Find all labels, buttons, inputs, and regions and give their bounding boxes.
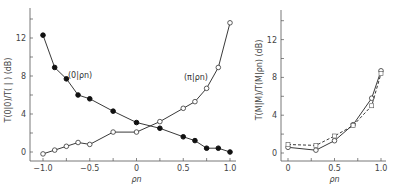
data-point — [379, 72, 383, 76]
data-point — [181, 135, 186, 140]
data-point — [76, 93, 81, 98]
data-point — [228, 21, 233, 26]
y-tick-label: 4 — [272, 111, 277, 120]
x-tick-label: 0 — [285, 164, 290, 173]
data-point — [64, 144, 69, 149]
x-tick-label: 0 — [134, 164, 139, 173]
data-point — [314, 143, 318, 147]
data-point — [204, 146, 209, 151]
y-axis-label: T(0|0)/T( | ) (dB) — [4, 58, 13, 124]
data-point — [193, 99, 198, 104]
y-tick-label: 8 — [21, 72, 26, 81]
y-tick-label: 0 — [21, 148, 26, 157]
y-axis-label: T(M|M)/T(M|ρn) (dB) — [255, 40, 264, 122]
data-point — [134, 130, 139, 135]
data-point — [193, 138, 198, 143]
y-tick-label: 12 — [267, 36, 277, 45]
data-point — [158, 126, 163, 131]
y-tick-label: 12 — [16, 34, 26, 43]
data-point — [333, 134, 337, 138]
data-point — [332, 138, 337, 143]
x-tick-label: 0.5 — [328, 164, 341, 173]
data-point — [314, 148, 319, 153]
data-point — [52, 65, 57, 70]
data-point — [111, 109, 116, 114]
data-point — [111, 130, 116, 135]
x-tick-label: 0.5 — [177, 164, 190, 173]
y-tick-label: 8 — [272, 73, 277, 82]
data-point — [87, 97, 92, 102]
right-chart: 0481200.51.0ρnT(M|M)/T(M|ρn) (dB) — [255, 10, 387, 184]
data-point — [76, 140, 81, 145]
data-point — [228, 150, 233, 155]
x-tick-label: −1.0 — [33, 164, 52, 173]
data-point — [216, 146, 221, 151]
data-point — [286, 142, 290, 146]
data-point — [41, 152, 46, 157]
left-chart: 04812−1.0−0.500.51.0ρnT(0|0)/T( | ) (dB)… — [4, 8, 236, 184]
data-point — [134, 120, 139, 125]
data-point — [204, 86, 209, 91]
figure: 04812−1.0−0.500.51.0ρnT(0|0)/T( | ) (dB)… — [0, 0, 402, 192]
data-point — [181, 106, 186, 111]
series-label-zero: (0|ρn) — [68, 71, 92, 80]
data-point — [369, 96, 374, 101]
data-point — [52, 148, 57, 153]
data-point — [370, 104, 374, 108]
data-point — [87, 142, 92, 147]
x-axis-label: ρn — [329, 175, 339, 184]
x-tick-label: 1.0 — [375, 164, 388, 173]
y-tick-label: 4 — [21, 110, 26, 119]
x-tick-label: 1.0 — [224, 164, 237, 173]
series-label-pi: (π|ρn) — [184, 73, 208, 82]
x-tick-label: −0.5 — [80, 164, 99, 173]
x-axis-label: ρn — [131, 175, 141, 184]
y-tick-label: 0 — [272, 149, 277, 158]
data-point — [351, 124, 355, 128]
data-point — [216, 65, 221, 70]
data-point — [41, 33, 46, 38]
data-point — [158, 119, 163, 124]
